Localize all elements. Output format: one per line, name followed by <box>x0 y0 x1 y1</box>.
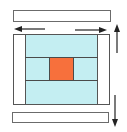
up-arrow-icon <box>114 24 120 53</box>
left-arrow-icon <box>14 26 45 32</box>
right-arrow-icon <box>75 27 107 33</box>
arrows-layer <box>0 0 127 132</box>
down-arrow-icon <box>112 95 118 127</box>
